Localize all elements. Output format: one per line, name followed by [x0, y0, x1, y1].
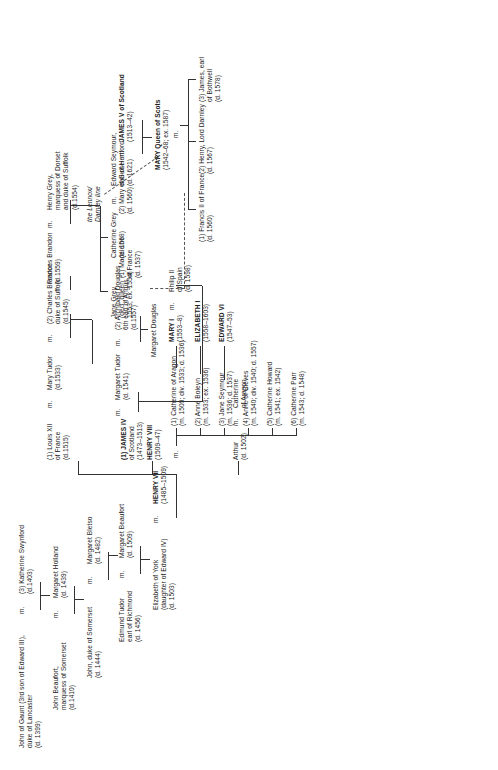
connector-line — [70, 276, 71, 290]
connector-line — [180, 125, 188, 126]
person-title: marquess of Dorset — [54, 151, 62, 210]
person-name: (1) Francis II of France — [198, 174, 206, 242]
person-dates: (1547–53) — [226, 304, 234, 342]
marriage-marker-margaret-1: m. — [114, 409, 122, 416]
person-name: Frances Brandon — [46, 232, 54, 284]
marriage-marker-beaufort: m. — [52, 611, 60, 618]
genealogy-canvas: John of Gaunt (3rd son of Edward III), d… — [0, 0, 498, 770]
person-dates: (d. 1503) — [168, 538, 176, 610]
connector-line — [40, 595, 50, 596]
connector-line — [108, 552, 109, 580]
person-dates: 1553; ex. 1554) — [126, 271, 134, 318]
connector-line — [200, 346, 201, 374]
person-dates: (1558–1603) — [202, 301, 210, 342]
marriage-marker-henry-viii: m. — [172, 451, 180, 458]
person-frances-brandon: Frances Brandon (d.1559) — [46, 232, 62, 284]
wife-name: (4) Anne of Cleves — [242, 340, 250, 426]
connector-line — [188, 79, 196, 80]
person-margaret-holland: Margaret Holland (d. 1439) — [52, 546, 68, 598]
person-name: Margaret Beaufort — [118, 504, 126, 558]
person-title: earl of Richmond — [126, 591, 134, 642]
person-name: (3) Katherine Swynford — [18, 525, 26, 594]
marriage-marker-catherine-grey: m. — [110, 197, 118, 204]
connector-line — [296, 428, 297, 436]
person-dates: (d.1533) — [54, 356, 62, 390]
person-dates: (d. 1598) — [184, 265, 192, 292]
person-elizabeth-of-york: Elizabeth of York (daughter of Edward IV… — [152, 538, 177, 610]
connector-line — [176, 285, 202, 286]
person-dates: (d. 1537) — [134, 237, 142, 278]
person-james-v: JAMES V of Scotland (1513–42) — [118, 74, 134, 142]
connector-line — [176, 346, 177, 368]
connector-line — [248, 428, 249, 436]
person-catherine-grey: Catherine Grey (d. 1568) — [110, 212, 126, 258]
person-title: of Scotland — [128, 419, 136, 460]
connector-line — [176, 428, 177, 436]
person-dates: (d. 1621) — [126, 133, 134, 186]
person-title: duke of Lancaster — [26, 635, 34, 748]
marriage-marker-mary-i: m. — [168, 303, 176, 310]
person-francis-ii: (1) Francis II of France (d. 1560) — [198, 174, 214, 242]
wife-dates: (m. 1543; d. 1548) — [298, 371, 306, 426]
person-name: Jane Grey — [110, 271, 118, 318]
connector-line — [188, 209, 196, 210]
person-katherine-swynford: (3) Katherine Swynford (d.1403) — [18, 525, 34, 594]
connector-line — [70, 319, 92, 320]
chart-frame: John of Gaunt (3rd son of Edward III), d… — [0, 0, 498, 770]
wife-item-3: (3) Jane Seymour (m. 1536; d. 1537) — [218, 371, 234, 426]
person-name: John, duke of Somerset — [86, 607, 94, 678]
person-john-of-gaunt: John of Gaunt (3rd son of Edward III), d… — [18, 635, 43, 748]
wife-dates: (m. 1509; div. 1533; d. 1536) — [178, 340, 186, 426]
person-dates: (1473–1513) — [136, 419, 144, 460]
wife-item-5: (5) Catherine Howard (m. 1541; ex. 1542) — [266, 362, 282, 426]
connector-line — [176, 474, 177, 518]
connector-line — [100, 206, 101, 292]
wife-item-6: (6) Catherine Parr (m. 1543; d. 1548) — [290, 371, 306, 426]
connector-line — [70, 200, 71, 224]
person-name: Edward Seymour, — [110, 133, 118, 186]
person-name: Arthur — [232, 433, 240, 460]
connector-line — [74, 599, 84, 600]
connector-line — [100, 291, 108, 292]
marriage-marker-mary-tudor-2: m. — [46, 335, 54, 342]
person-bothwell: (3) James, earl of Bothwell (d. 1578) — [198, 57, 223, 102]
person-name: John Beaufort, — [52, 642, 60, 710]
person-name: (2) Henry, Lord Darnley — [198, 104, 206, 174]
person-henry-viii: HENRY VIII (1509–47) — [146, 425, 162, 460]
person-dates: (d.1515) — [62, 424, 70, 460]
person-name: Margaret Holland — [52, 546, 60, 598]
connector-line — [138, 392, 139, 412]
person-darnley: (2) Henry, Lord Darnley (d. 1567) — [198, 104, 214, 174]
person-margaret-douglas: Margaret Douglas — [150, 304, 158, 357]
connector-line — [40, 582, 41, 610]
person-edward-vi: EDWARD VI (1547–53) — [218, 304, 234, 342]
wife-item-1: (1) Catherine of Aragon (m. 1509; div. 1… — [170, 340, 186, 426]
person-dates: (d.1554) — [71, 151, 79, 210]
person-note: (daughter of Edward IV) — [160, 538, 168, 610]
person-dates: (d. 1439) — [60, 546, 68, 598]
person-henry-grey: Henry Grey, marquess of Dorset and duke … — [46, 151, 79, 210]
person-henry-vii: HENRY VII (1485–1509) — [152, 466, 168, 504]
wife-name: (2) Anne Boleyn — [194, 368, 202, 426]
marriage-marker-tudor: m. — [118, 571, 126, 578]
person-dates: (d. 1502) — [240, 433, 248, 460]
connector-line — [272, 428, 273, 436]
person-dates: (d.1410) — [68, 642, 76, 710]
main-spine — [78, 474, 176, 475]
person-name: Mary Tudor — [46, 356, 54, 390]
connector-line — [100, 237, 108, 238]
person-name: Margaret Tudor — [114, 354, 122, 400]
person-dates: (d. 1456) — [134, 591, 142, 642]
wives-trunk — [176, 435, 296, 436]
person-name: Edmund Tudor — [118, 591, 126, 642]
connector-line — [200, 428, 201, 436]
person-dates: (1553–8) — [176, 315, 184, 342]
person-john-beaufort: John Beaufort, marquess of Somerset (d.1… — [52, 642, 77, 710]
person-dates: (d. 1567) — [206, 104, 214, 174]
connector-line — [238, 461, 239, 475]
person-mary-i: MARY I (1553–8) — [168, 315, 184, 342]
person-jane-grey: Jane Grey (decl. queen 1553; ex. 1554) — [110, 271, 135, 318]
person-dates: (d. 1560) — [206, 174, 214, 242]
connector-line — [142, 137, 152, 138]
person-name: Henry Grey, — [46, 151, 54, 210]
